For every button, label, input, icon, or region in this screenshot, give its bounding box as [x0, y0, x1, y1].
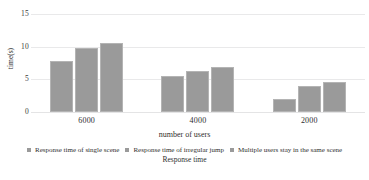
- bar-chart: 15 10 5 0 time(s) 6000 4000 2000 number …: [0, 0, 369, 180]
- bar-group-4000: [142, 14, 253, 112]
- bar-4000-irregular-jump: [186, 71, 209, 112]
- y-tick-15: 15: [3, 10, 29, 18]
- legend-subtitle: Response time: [0, 155, 369, 165]
- legend-item-irregular-jump: Response time of irregular jump: [125, 145, 224, 155]
- chart-legend: Response time of single scene Response t…: [0, 145, 369, 155]
- legend-label-irregular-jump: Response time of irregular jump: [133, 146, 224, 154]
- y-axis-title: time(s): [6, 36, 15, 82]
- bar-groups: [31, 14, 365, 112]
- bar-4000-same-scene: [211, 67, 234, 112]
- bar-6000-same-scene: [100, 43, 123, 112]
- bar-2000-single-scene: [273, 99, 296, 112]
- x-tick-2000: 2000: [254, 116, 365, 126]
- legend-label-same-scene: Multiple users stay in the same scene: [238, 146, 342, 154]
- bar-2000-same-scene: [323, 82, 346, 112]
- bar-6000-single-scene: [50, 61, 73, 112]
- bar-6000-irregular-jump: [75, 48, 98, 112]
- legend-swatch-icon: [27, 148, 31, 152]
- x-axis-baseline: [31, 112, 365, 113]
- y-tick-0: 0: [3, 108, 29, 116]
- bar-2000-irregular-jump: [298, 86, 321, 112]
- legend-label-single-scene: Response time of single scene: [35, 146, 119, 154]
- bar-group-6000: [31, 14, 142, 112]
- x-axis-title: number of users: [0, 130, 369, 140]
- x-tick-4000: 4000: [142, 116, 253, 126]
- legend-swatch-icon: [230, 148, 234, 152]
- x-tick-6000: 6000: [31, 116, 142, 126]
- bar-4000-single-scene: [161, 76, 184, 112]
- legend-item-same-scene: Multiple users stay in the same scene: [230, 145, 342, 155]
- legend-item-single-scene: Response time of single scene: [27, 145, 120, 155]
- x-axis-labels: 6000 4000 2000: [31, 116, 365, 126]
- y-axis: 15 10 5 0 time(s): [0, 0, 29, 112]
- bar-group-2000: [254, 14, 365, 112]
- legend-swatch-icon: [125, 148, 129, 152]
